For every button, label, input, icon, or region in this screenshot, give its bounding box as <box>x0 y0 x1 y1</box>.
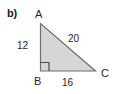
vertex-label-a: A <box>35 9 42 20</box>
triangle-figure: b) A B C 12 16 20 <box>0 0 117 94</box>
vertex-label-b: B <box>34 76 41 87</box>
side-length-label-ab: 12 <box>17 41 28 51</box>
side-length-label-ac: 20 <box>68 34 79 44</box>
vertex-label-c: C <box>101 68 109 79</box>
side-length-label-bc: 16 <box>62 78 73 88</box>
